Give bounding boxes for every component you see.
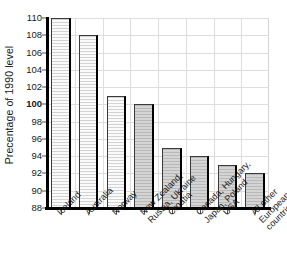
bar: [79, 35, 98, 208]
y-axis-line: [46, 17, 49, 209]
gridline-vertical: [158, 18, 159, 208]
gridline-vertical: [75, 18, 76, 208]
y-axis-tick-label: 92: [31, 169, 42, 179]
y-axis-tick-label: 110: [27, 13, 42, 23]
plot-frame-right: [268, 18, 269, 208]
bar: [134, 104, 153, 208]
y-axis-tick-label: 98: [31, 117, 42, 127]
bar: [51, 18, 70, 208]
y-axis-tick-label: 104: [26, 65, 42, 75]
bar-chart: Precentage of 1990 level 889092949698100…: [0, 0, 287, 280]
y-axis-tick-label: 94: [31, 151, 42, 161]
gridline-vertical: [214, 18, 215, 208]
y-axis-tick-label: 106: [26, 48, 42, 58]
gridline-vertical: [103, 18, 104, 208]
y-axis-tick-label: 90: [31, 186, 42, 196]
y-axis-tick-label: 96: [31, 134, 42, 144]
x-axis-category-labels: IcelandAustraliaNorwayNew Zealand, Russi…: [0, 210, 287, 280]
y-axis-title-text: Precentage of 1990 level: [3, 46, 15, 165]
y-axis-tick-label: 100: [26, 100, 42, 110]
gridline-vertical: [130, 18, 131, 208]
y-axis-tick-label: 108: [26, 31, 42, 41]
y-axis-tick-label: 102: [26, 82, 42, 92]
